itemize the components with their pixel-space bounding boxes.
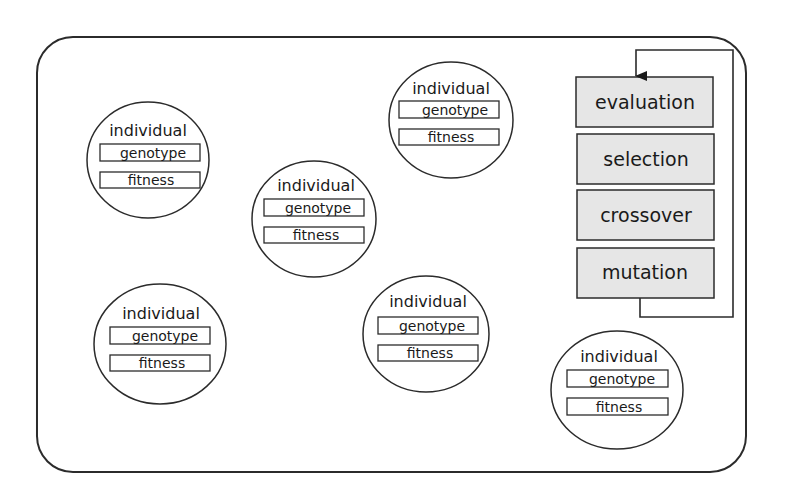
genotype-label: genotype: [285, 200, 351, 216]
individual-5: individual genotype fitness: [363, 276, 489, 392]
fitness-label: fitness: [139, 355, 185, 371]
genotype-label: genotype: [120, 145, 186, 161]
fitness-label: fitness: [293, 227, 339, 243]
step-evaluation-label: evaluation: [595, 91, 695, 113]
individual-label: individual: [412, 79, 490, 98]
step-crossover-label: crossover: [600, 204, 692, 226]
individual-label: individual: [389, 292, 467, 311]
individual-4: individual genotype fitness: [94, 284, 226, 404]
fitness-label: fitness: [407, 345, 453, 361]
fitness-label: fitness: [596, 399, 642, 415]
individual-label: individual: [580, 347, 658, 366]
genotype-label: genotype: [422, 102, 488, 118]
individual-6: individual genotype fitness: [551, 331, 683, 449]
fitness-label: fitness: [428, 129, 474, 145]
genotype-label: genotype: [589, 371, 655, 387]
individual-label: individual: [277, 176, 355, 195]
individual-label: individual: [109, 121, 187, 140]
genetic-algorithm-diagram: individual genotype fitness individual g…: [0, 0, 786, 494]
genotype-label: genotype: [399, 318, 465, 334]
individual-2: individual genotype fitness: [252, 161, 376, 277]
individual-label: individual: [122, 304, 200, 323]
individual-1: individual genotype fitness: [87, 102, 209, 218]
individual-3: individual genotype fitness: [389, 62, 513, 178]
step-mutation-label: mutation: [602, 261, 688, 283]
fitness-label: fitness: [128, 172, 174, 188]
step-selection-label: selection: [603, 148, 688, 170]
genotype-label: genotype: [132, 328, 198, 344]
